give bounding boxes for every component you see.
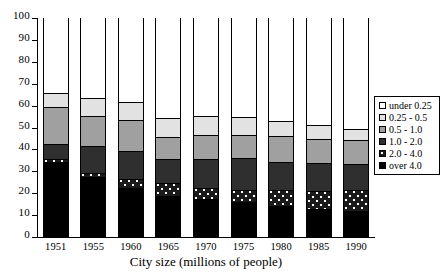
- bar-segment[interactable]: [44, 162, 68, 236]
- bar-segment[interactable]: [194, 116, 218, 136]
- legend-item[interactable]: 0.25 - 0.5: [379, 112, 436, 123]
- bar-segment[interactable]: [81, 146, 105, 172]
- bar-segment[interactable]: [232, 135, 256, 158]
- legend: under 0.250.25 - 0.50.5 - 1.01.0 - 2.02.…: [374, 96, 440, 175]
- y-axis-tick-label: 70: [19, 76, 30, 87]
- segment-divider: [194, 135, 218, 136]
- bar-segment[interactable]: [156, 17, 180, 118]
- segment-divider: [156, 137, 180, 138]
- legend-swatch-icon: [379, 162, 386, 169]
- bar-segment[interactable]: [44, 107, 68, 144]
- x-axis-tick-label: 1965: [148, 241, 188, 253]
- bar-segment[interactable]: [81, 177, 105, 236]
- legend-swatch-icon: [379, 150, 386, 157]
- legend-item[interactable]: 1.0 - 2.0: [379, 136, 436, 147]
- stacked-bar[interactable]: [306, 18, 332, 237]
- segment-divider: [81, 98, 105, 99]
- bar-segment[interactable]: [269, 190, 293, 206]
- segment-divider: [232, 158, 256, 159]
- bar-group: [268, 18, 294, 237]
- bar-segment[interactable]: [156, 137, 180, 159]
- bar-segment[interactable]: [156, 118, 180, 138]
- y-axis-tick-label: 20: [19, 185, 30, 196]
- bar-segment[interactable]: [344, 129, 368, 140]
- y-axis-tick-mark: [32, 237, 37, 238]
- bar-segment[interactable]: [344, 164, 368, 190]
- bar-segment[interactable]: [307, 125, 331, 138]
- stacked-bar[interactable]: [193, 18, 219, 237]
- bar-segment[interactable]: [232, 190, 256, 202]
- segment-divider: [156, 118, 180, 119]
- segment-divider: [232, 190, 256, 191]
- bar-segment[interactable]: [232, 202, 256, 236]
- stacked-bar[interactable]: [155, 18, 181, 237]
- bar-segment[interactable]: [119, 120, 143, 151]
- bar-segment[interactable]: [269, 121, 293, 136]
- segment-divider: [194, 159, 218, 160]
- bar-segment[interactable]: [344, 17, 368, 129]
- bar-segment[interactable]: [156, 159, 180, 183]
- bar-segment[interactable]: [307, 139, 331, 163]
- bar-segment[interactable]: [307, 191, 331, 209]
- bar-segment[interactable]: [269, 162, 293, 190]
- legend-item-label: 2.0 - 4.0: [389, 149, 422, 159]
- bar-segment[interactable]: [269, 136, 293, 161]
- bar-segment[interactable]: [269, 206, 293, 236]
- legend-item[interactable]: over 4.0: [379, 160, 436, 171]
- y-axis-tick-label: 60: [19, 98, 30, 109]
- bar-segment[interactable]: [81, 17, 105, 98]
- bar-segment[interactable]: [344, 140, 368, 164]
- bar-segment[interactable]: [156, 196, 180, 237]
- bar-segment[interactable]: [44, 17, 68, 93]
- bar-group: [118, 18, 144, 237]
- legend-item-label: under 0.25: [389, 101, 432, 111]
- bar-segment[interactable]: [232, 158, 256, 190]
- bar-segment[interactable]: [232, 17, 256, 117]
- bar-segment[interactable]: [44, 93, 68, 107]
- bar-segment[interactable]: [156, 183, 180, 195]
- bar-segment[interactable]: [119, 102, 143, 120]
- stacked-bar[interactable]: [43, 18, 69, 237]
- x-axis-tick-label: 1960: [111, 241, 151, 253]
- bar-segment[interactable]: [194, 135, 218, 159]
- bar-segment[interactable]: [307, 17, 331, 125]
- stacked-bar[interactable]: [343, 18, 369, 237]
- bar-segment[interactable]: [344, 211, 368, 236]
- stacked-bar[interactable]: [231, 18, 257, 237]
- bar-segment[interactable]: [307, 209, 331, 236]
- bar-segment[interactable]: [194, 188, 218, 199]
- segment-divider: [232, 135, 256, 136]
- bar-group: [80, 18, 106, 237]
- segment-divider: [269, 136, 293, 137]
- bar-segment[interactable]: [81, 173, 105, 177]
- legend-item[interactable]: 2.0 - 4.0: [379, 148, 436, 159]
- legend-item[interactable]: 0.5 - 1.0: [379, 124, 436, 135]
- bar-segment[interactable]: [44, 144, 68, 159]
- stacked-bar[interactable]: [80, 18, 106, 237]
- bar-segment[interactable]: [119, 188, 143, 236]
- bar-segment[interactable]: [119, 179, 143, 188]
- bar-segment[interactable]: [81, 116, 105, 147]
- bar-segment[interactable]: [194, 17, 218, 116]
- legend-item[interactable]: under 0.25: [379, 100, 436, 111]
- y-axis-tick-label: 90: [19, 32, 30, 43]
- bar-segment[interactable]: [307, 163, 331, 191]
- bar-segment[interactable]: [119, 17, 143, 102]
- legend-item-label: 0.5 - 1.0: [389, 125, 422, 135]
- y-axis-tick-label: 100: [13, 10, 30, 21]
- bar-segment[interactable]: [194, 199, 218, 236]
- segment-divider: [119, 179, 143, 180]
- bar-segment[interactable]: [232, 117, 256, 136]
- bar-segment[interactable]: [194, 159, 218, 187]
- bar-segment[interactable]: [119, 151, 143, 179]
- bar-segment[interactable]: [81, 98, 105, 116]
- segment-divider: [156, 183, 180, 184]
- x-axis-line: [37, 237, 375, 238]
- bar-segment[interactable]: [269, 17, 293, 121]
- legend-swatch-icon: [379, 126, 386, 133]
- bar-segment[interactable]: [44, 159, 68, 161]
- segment-divider: [307, 209, 331, 210]
- stacked-bar[interactable]: [118, 18, 144, 237]
- bar-segment[interactable]: [344, 190, 368, 211]
- stacked-bar[interactable]: [268, 18, 294, 237]
